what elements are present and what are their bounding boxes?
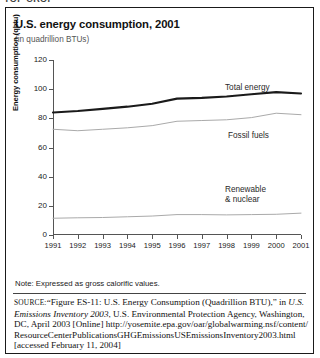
x-tick-label: 1994: [114, 241, 140, 250]
source-part1: “Figure ES-11: U.S. Energy Consumption (…: [47, 297, 289, 307]
figure-note: Note: Expressed as gross calorific value…: [15, 279, 160, 288]
x-tick-mark: [152, 235, 153, 239]
x-tick-mark: [301, 235, 302, 239]
figure-inner: U.S. energy consumption, 2001 (in quadri…: [6, 8, 313, 353]
x-tick-label: 1991: [40, 241, 66, 250]
x-tick-mark: [276, 235, 277, 239]
x-tick-mark: [127, 235, 128, 239]
y-tick-label: 80: [23, 113, 47, 122]
x-tick-label: 2000: [263, 241, 289, 250]
x-tick-label: 1992: [65, 241, 91, 250]
plot-area: Energy consumption (qbtu) 02040608010012…: [13, 53, 308, 271]
x-tick-mark: [103, 235, 104, 239]
y-axis-label: Energy consumption (qbtu): [11, 1, 20, 111]
y-tick-label: 20: [23, 201, 47, 210]
x-tick-mark: [251, 235, 252, 239]
x-tick-label: 1999: [238, 241, 264, 250]
y-tick-label: 0: [23, 230, 47, 239]
chart-title: U.S. energy consumption, 2001: [15, 18, 306, 30]
chart-subtitle: (in quadrillion BTUs): [15, 35, 306, 44]
x-tick-mark: [53, 235, 54, 239]
x-tick-label: 1993: [90, 241, 116, 250]
x-tick-mark: [227, 235, 228, 239]
series-line-total-energy: [53, 92, 301, 112]
y-tick-label: 60: [23, 143, 47, 152]
divider: [13, 293, 306, 294]
y-tick-label: 120: [23, 55, 47, 64]
source-citation: SOURCE:“Figure ES-11: U.S. Energy Consum…: [14, 297, 309, 351]
figure-box: U.S. energy consumption, 2001 (in quadri…: [5, 7, 314, 354]
cropped-page-text-strip: TOP CROP: [0, 0, 320, 7]
series-label-total-energy: Total energy: [225, 83, 270, 93]
series-line-renewable-nuclear: [53, 213, 301, 218]
x-tick-label: 1995: [139, 241, 165, 250]
x-tick-label: 1996: [164, 241, 190, 250]
x-tick-label: 2001: [288, 241, 314, 250]
x-tick-label: 1998: [214, 241, 240, 250]
source-label: SOURCE:: [14, 298, 47, 307]
x-tick-mark: [177, 235, 178, 239]
series-line-fossil-fuels: [53, 113, 301, 131]
series-label-fossil-fuels: Fossil fuels: [228, 131, 269, 141]
renew-line2: & nuclear: [225, 195, 260, 204]
x-tick-label: 1997: [189, 241, 215, 250]
renew-line1: Renewable: [225, 185, 266, 194]
y-tick-label: 40: [23, 172, 47, 181]
x-tick-mark: [78, 235, 79, 239]
source-part3: [accessed February 11, 2004]: [14, 340, 121, 350]
y-tick-label: 100: [23, 84, 47, 93]
x-tick-mark: [202, 235, 203, 239]
series-label-renewable-nuclear: Renewable& nuclear: [225, 185, 266, 204]
